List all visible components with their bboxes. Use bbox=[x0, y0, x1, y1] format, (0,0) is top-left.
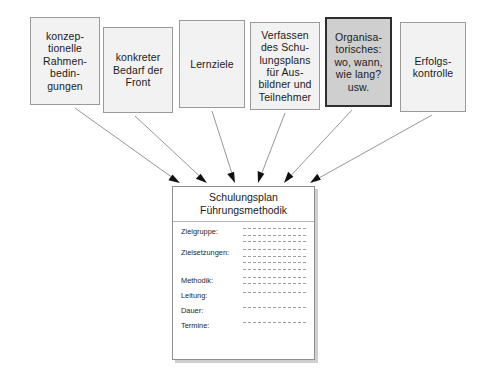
form-row: Dauer: bbox=[181, 305, 306, 315]
form-row-label: Zielsetzungen: bbox=[181, 247, 243, 257]
box-label: Organisa- torisches: wo, wann, wie lang?… bbox=[331, 31, 385, 93]
form-row-input[interactable] bbox=[243, 320, 306, 323]
box-organisatorisches[interactable]: Organisa- torisches: wo, wann, wie lang?… bbox=[325, 17, 392, 107]
box-label: konzep- tionelle Rahmen- bedin- gungen bbox=[40, 30, 90, 92]
arrow-from-organisatorisches bbox=[284, 110, 352, 183]
form-row-input[interactable] bbox=[243, 290, 306, 293]
arrow-from-lernziele bbox=[212, 111, 235, 183]
box-label: Verfassen des Schu- lungsplans für Aus- … bbox=[255, 29, 314, 103]
form-row-label: Termine: bbox=[181, 320, 243, 330]
form-write-line[interactable] bbox=[243, 228, 306, 229]
form-write-line[interactable] bbox=[243, 277, 306, 278]
box-konkreter-bedarf-der-front[interactable]: konkreter Bedarf der Front bbox=[103, 27, 173, 113]
arrow-from-verfassen bbox=[258, 113, 285, 183]
box-erfolgskontrolle[interactable]: Erfolgs- kontrolle bbox=[400, 22, 466, 112]
schulungsplan-form-card[interactable]: Schulungsplan Führungsmethodik Zielgrupp… bbox=[172, 186, 315, 360]
form-row-label: Methodik: bbox=[181, 275, 243, 285]
form-write-line[interactable] bbox=[243, 256, 306, 257]
form-row-input[interactable] bbox=[243, 275, 306, 285]
form-rows: Zielgruppe:Zielsetzungen:Methodik:Leitun… bbox=[173, 222, 314, 330]
form-write-line[interactable] bbox=[243, 292, 306, 293]
form-row-label: Dauer: bbox=[181, 305, 243, 315]
box-lernziele[interactable]: Lernziele bbox=[179, 20, 245, 108]
form-row-label: Leitung: bbox=[181, 290, 243, 300]
form-write-line[interactable] bbox=[243, 241, 306, 242]
form-write-line[interactable] bbox=[243, 283, 306, 284]
form-write-line[interactable] bbox=[243, 249, 306, 250]
form-write-line[interactable] bbox=[243, 269, 306, 270]
box-label: Erfolgs- kontrolle bbox=[410, 55, 457, 80]
form-title: Schulungsplan Führungsmethodik bbox=[173, 187, 314, 222]
form-row-label: Zielgruppe: bbox=[181, 226, 243, 236]
form-row-input[interactable] bbox=[243, 226, 306, 242]
arrow-from-konkreter-bedarf bbox=[135, 116, 207, 183]
arrow-from-erfolgskontrolle bbox=[310, 115, 432, 183]
form-row: Zielsetzungen: bbox=[181, 247, 306, 270]
form-row: Termine: bbox=[181, 320, 306, 330]
form-row-input[interactable] bbox=[243, 305, 306, 308]
form-row: Leitung: bbox=[181, 290, 306, 300]
box-label: Lernziele bbox=[187, 58, 237, 70]
box-verfassen-des-schulungsplans[interactable]: Verfassen des Schu- lungsplans für Aus- … bbox=[250, 22, 320, 110]
form-write-line[interactable] bbox=[243, 262, 306, 263]
form-row: Zielgruppe: bbox=[181, 226, 306, 242]
box-label: konkreter Bedarf der Front bbox=[110, 51, 166, 88]
form-write-line[interactable] bbox=[243, 322, 306, 323]
form-row-input[interactable] bbox=[243, 247, 306, 270]
diagram-canvas: konzep- tionelle Rahmen- bedin- gungenko… bbox=[0, 0, 490, 385]
arrow-from-konzeptionelle bbox=[75, 108, 180, 183]
box-konzeptionelle-rahmenbedingungen[interactable]: konzep- tionelle Rahmen- bedin- gungen bbox=[30, 17, 100, 105]
form-row: Methodik: bbox=[181, 275, 306, 285]
form-write-line[interactable] bbox=[243, 307, 306, 308]
form-write-line[interactable] bbox=[243, 235, 306, 236]
